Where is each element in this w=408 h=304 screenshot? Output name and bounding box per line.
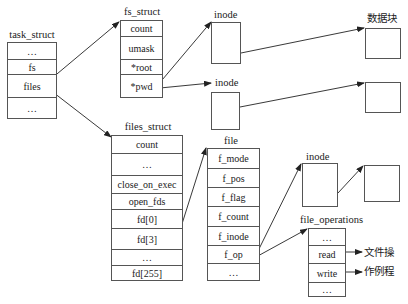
arrow-inode-to-data-block-3 xyxy=(338,166,363,193)
files-struct-title: files_struct xyxy=(118,121,178,133)
files-struct-row-fd3: fd[3] xyxy=(112,228,182,249)
data-block-1 xyxy=(365,28,401,59)
file-row-f-inode: f_inode xyxy=(208,226,259,245)
task-struct-title: task_struct xyxy=(6,29,58,41)
fs-struct-box: count umask *root *pwd xyxy=(120,20,163,98)
data-blocks-title: 数据块 xyxy=(367,12,397,25)
file-operations-row-read: read xyxy=(309,245,345,263)
file-title: file xyxy=(224,135,238,147)
files-struct-row: … xyxy=(112,249,182,265)
inode-pwd-title: inode xyxy=(215,77,238,89)
task-struct-box: … fs files … xyxy=(7,42,57,119)
file-row-f-mode: f_mode xyxy=(208,149,259,168)
task-struct-row: … xyxy=(8,43,56,59)
arrow-inode-to-data-block-2 xyxy=(240,83,364,107)
file-row-f-flag: f_flag xyxy=(208,187,259,206)
data-block-3 xyxy=(364,165,400,202)
files-struct-row-fd255: fd[255] xyxy=(112,265,182,280)
file-operations-title: file_operations xyxy=(300,214,363,226)
task-struct-row: … xyxy=(8,97,56,118)
file-row-f-pos: f_pos xyxy=(208,168,259,187)
arrow-fop-to-file-operations xyxy=(256,229,307,257)
file-routines-label-line1: 文件操 xyxy=(364,246,394,259)
arrow-pwd-to-inode-top xyxy=(157,22,211,86)
file-row: … xyxy=(208,263,259,280)
inode-pwd-box xyxy=(211,92,240,130)
fs-struct-row-pwd: *pwd xyxy=(121,74,162,97)
arrow-pwd-to-inode-second xyxy=(160,83,211,88)
file-operations-row: … xyxy=(309,282,345,296)
arrow-fop-to-inode xyxy=(256,164,301,255)
file-operations-box: … read write … xyxy=(308,228,346,297)
inode-file-title: inode xyxy=(306,151,329,163)
inode-root-title: inode xyxy=(214,9,237,21)
task-struct-row-files: files xyxy=(8,74,56,97)
task-struct-row-fs: fs xyxy=(8,59,56,74)
file-box: f_mode f_pos f_flag f_count f_inode f_op… xyxy=(207,148,260,281)
fs-struct-row-count: count xyxy=(121,21,162,36)
files-struct-row-close-on-exec: close_on_exec xyxy=(112,175,182,193)
files-struct-row: … xyxy=(112,153,182,175)
files-struct-box: count … close_on_exec open_fds fd[0] fd[… xyxy=(111,135,183,281)
inode-root-box xyxy=(211,22,241,64)
files-struct-row-open-fds: open_fds xyxy=(112,193,182,209)
files-struct-row-fd0: fd[0] xyxy=(112,209,182,228)
file-row-f-op: f_op xyxy=(208,245,259,263)
fs-struct-row-umask: umask xyxy=(121,36,162,59)
file-operations-row: … xyxy=(309,229,345,245)
connector-arrows xyxy=(0,0,408,304)
arrow-inode-to-data-block-1 xyxy=(241,28,364,53)
inode-file-box xyxy=(302,163,338,207)
file-operations-row-write: write xyxy=(309,263,345,282)
files-struct-row-count: count xyxy=(112,136,182,153)
file-routines-label-line2: 作例程 xyxy=(364,265,394,278)
data-block-2 xyxy=(365,82,401,113)
fs-struct-title: fs_struct xyxy=(116,6,168,18)
fs-struct-row-root: *root xyxy=(121,59,162,74)
file-row-f-count: f_count xyxy=(208,206,259,226)
